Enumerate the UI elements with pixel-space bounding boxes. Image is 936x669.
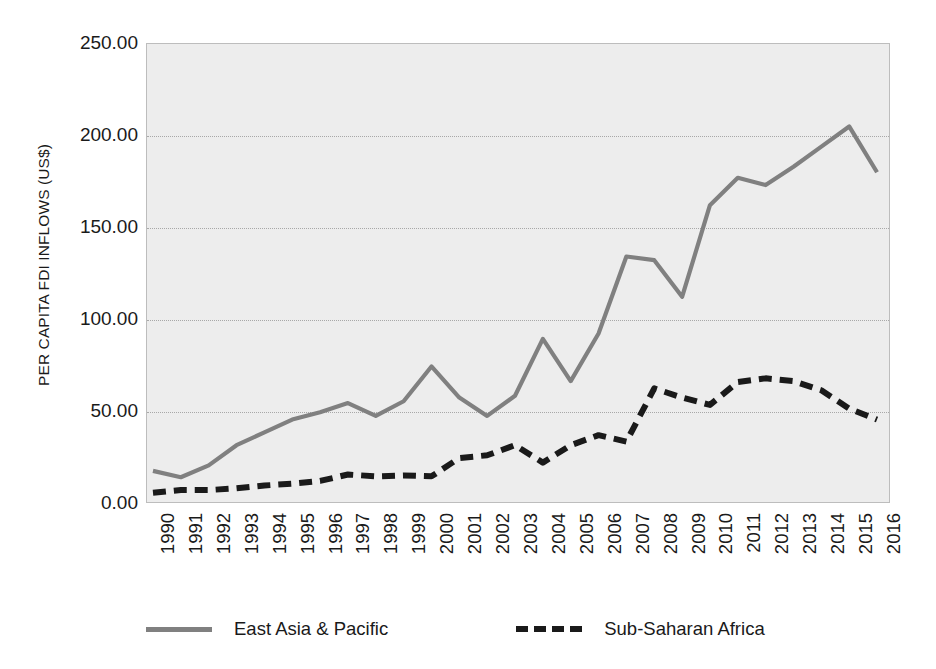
x-tick-label: 1999	[410, 513, 429, 603]
x-tick-label: 2008	[662, 513, 681, 603]
x-tick-label: 1995	[299, 513, 318, 603]
y-axis-tick-labels: 250.00200.00150.00100.0050.000.00	[42, 0, 138, 560]
x-tick-label: 1991	[187, 513, 206, 603]
x-tick-label: 1993	[243, 513, 262, 603]
plot-area	[146, 43, 890, 503]
x-tick-label: 2004	[550, 513, 569, 603]
x-tick-label: 1990	[159, 513, 178, 603]
x-tick-label: 2009	[690, 513, 709, 603]
y-tick-label: 100.00	[48, 309, 138, 328]
x-axis-tick-labels: 1990199119921993199419951996199719981999…	[146, 503, 890, 603]
x-tick-label: 2010	[717, 513, 736, 603]
legend-swatch-dashed-line-icon	[516, 626, 582, 632]
x-tick-label: 2005	[578, 513, 597, 603]
x-tick-label: 2003	[522, 513, 541, 603]
fdi-inflows-line-chart: PER CAPITA FDI INFLOWS (US$) 250.00200.0…	[0, 0, 936, 669]
x-tick-label: 1996	[327, 513, 346, 603]
y-tick-label: 150.00	[48, 217, 138, 236]
chart-legend: East Asia & Pacific Sub-Saharan Africa	[146, 612, 890, 646]
series-line-east-asia-pacific	[153, 126, 877, 477]
x-tick-label: 2014	[829, 513, 848, 603]
x-tick-label: 1992	[215, 513, 234, 603]
x-tick-label: 2007	[634, 513, 653, 603]
x-tick-label: 2000	[438, 513, 457, 603]
x-tick-label: 1997	[354, 513, 373, 603]
x-tick-label: 2016	[885, 513, 904, 603]
x-tick-label: 2001	[466, 513, 485, 603]
legend-label-sub-saharan-africa: Sub-Saharan Africa	[604, 618, 764, 640]
y-tick-label: 250.00	[48, 33, 138, 52]
x-tick-label: 1994	[271, 513, 290, 603]
x-tick-label: 2002	[494, 513, 513, 603]
legend-swatch-solid-line-icon	[146, 627, 212, 632]
x-tick-label: 1998	[382, 513, 401, 603]
y-tick-label: 200.00	[48, 125, 138, 144]
legend-entry-sub-saharan-africa: Sub-Saharan Africa	[516, 618, 764, 640]
series-layer	[147, 44, 889, 502]
x-tick-label: 2012	[773, 513, 792, 603]
x-tick-label: 2015	[857, 513, 876, 603]
x-tick-label: 2011	[745, 513, 764, 603]
x-tick-label: 2013	[801, 513, 820, 603]
legend-entry-east-asia-pacific: East Asia & Pacific	[146, 618, 388, 640]
y-tick-label: 0.00	[48, 493, 138, 512]
y-tick-label: 50.00	[48, 401, 138, 420]
x-tick-label: 2006	[606, 513, 625, 603]
legend-label-east-asia-pacific: East Asia & Pacific	[234, 618, 388, 640]
